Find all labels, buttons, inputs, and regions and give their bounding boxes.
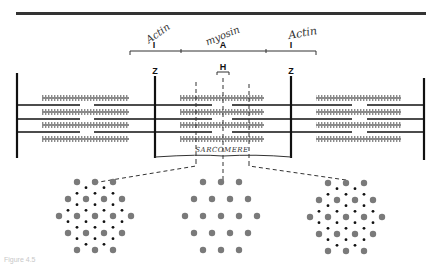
- label-h: H: [220, 62, 227, 72]
- handwritten-actin-left: Actin: [143, 21, 172, 46]
- handwritten-actin-right: Actin: [286, 24, 318, 42]
- sarcomere-diagram: I A I H Z Z Actin myosin Actin SARCOMERE: [0, 0, 441, 268]
- h-zone-bracket: [217, 72, 229, 75]
- label-z-left: Z: [152, 66, 158, 76]
- cross-section-overlap-right: [307, 180, 385, 254]
- cross-section-overlap-left: [56, 179, 134, 253]
- label-z-right: Z: [288, 66, 294, 76]
- top-border-bar: [16, 12, 426, 15]
- handwritten-sarcomere: SARCOMERE: [195, 146, 248, 154]
- figure-caption: Figure 4.5: [4, 256, 36, 263]
- cross-section-h-zone: [182, 179, 260, 253]
- section-guides: [93, 78, 346, 184]
